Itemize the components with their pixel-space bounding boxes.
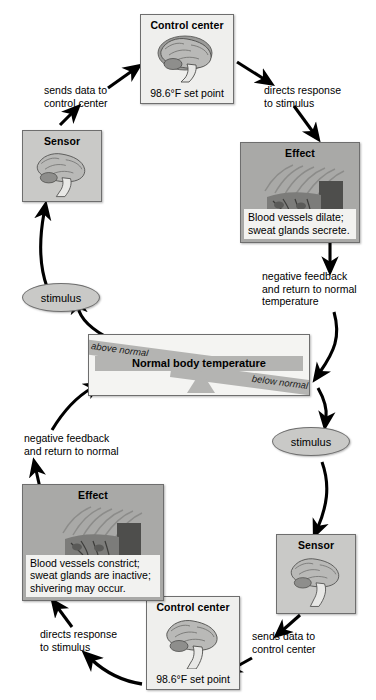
effect-box-bottom[interactable]: Effect Blood vessels constrict; sweat: [22, 484, 164, 601]
effect-title-bottom: Effect: [23, 485, 163, 501]
sensor-box-bottom[interactable]: Sensor: [276, 534, 356, 614]
caption-directs-response-top: directs response to stimulus: [264, 84, 374, 109]
arrow-feedback-to-balance-top: [320, 312, 337, 372]
sensor-title-bottom: Sensor: [277, 535, 355, 551]
caption-text: negative feedback and return to normal t…: [262, 270, 357, 307]
arrow-control-to-response-top: [237, 62, 264, 79]
arrow-sensor-to-control-top: [60, 113, 72, 125]
normal-temperature-label: Normal body temperature: [132, 357, 266, 369]
brain-icon: [156, 615, 230, 669]
effect-box-top[interactable]: Effect Blood vessels dilate; sweat gl: [240, 142, 360, 243]
brain-icon: [151, 33, 223, 83]
effect-caption-bottom: Blood vessels constrict; sweat glands ar…: [26, 555, 160, 598]
arrow-response-to-effect-top: [294, 106, 313, 132]
caption-text: sends data to control center: [44, 84, 108, 109]
brain-icon: [28, 147, 96, 199]
stimulus-label-top: stimulus: [41, 292, 81, 304]
arrow-feedback-to-balance-bottom: [52, 388, 92, 430]
sensor-box-top[interactable]: Sensor: [22, 130, 102, 202]
control-center-box-bottom[interactable]: Control center 98.6°F set point: [146, 596, 240, 690]
arrow-sensor-to-senddata-bottom: [283, 615, 300, 630]
arrow-response-to-effect-bottom: [58, 608, 72, 627]
arrow-balance-to-stimulus-bottom: [318, 388, 326, 418]
arrow-control-to-response-bottom: [92, 660, 142, 684]
caption-text: directs response to stimulus: [40, 628, 117, 653]
effect-title-top: Effect: [241, 143, 359, 159]
skin-sweat-gland-icon: [259, 161, 355, 213]
stimulus-label-bottom: stimulus: [291, 436, 331, 448]
caption-sends-data-bottom: sends data to control center: [252, 630, 368, 655]
caption-sends-data-top: sends data to control center: [44, 84, 154, 109]
effect-caption-top: Blood vessels dilate; sweat glands secre…: [244, 209, 356, 239]
homeostasis-feedback-diagram: Control center 98.6°F set point Sensor: [0, 0, 376, 700]
control-center-box-top[interactable]: Control center 98.6°F set point: [140, 14, 234, 104]
caption-negative-feedback-bottom: negative feedback and return to normal: [24, 432, 154, 457]
below-normal-label: below normal: [251, 373, 308, 391]
caption-directs-response-bottom: directs response to stimulus: [40, 628, 150, 653]
stimulus-oval-bottom[interactable]: stimulus: [272, 427, 350, 456]
caption-text: sends data to control center: [252, 630, 316, 655]
control-center-setpoint-top: 98.6°F set point: [141, 87, 233, 99]
temperature-balance-panel: above normal below normal Normal body te…: [88, 334, 310, 396]
normal-temperature-bar: Normal body temperature: [95, 356, 303, 371]
control-center-setpoint-bottom: 98.6°F set point: [147, 673, 239, 685]
caption-negative-feedback-top: negative feedback and return to normal t…: [262, 270, 374, 308]
fulcrum-triangle: [187, 371, 215, 393]
arrow-stimulus-to-sensor-top: [41, 213, 47, 287]
caption-text: directs response to stimulus: [264, 84, 341, 109]
caption-text: negative feedback and return to normal: [24, 432, 119, 457]
control-center-title-top: Control center: [141, 15, 233, 31]
stimulus-oval-top[interactable]: stimulus: [22, 283, 100, 312]
skin-sweat-gland-icon: [55, 503, 155, 555]
arrow-stimulus-to-sensor-bottom: [318, 462, 327, 527]
brain-icon: [282, 551, 350, 609]
sensor-title-top: Sensor: [23, 131, 101, 147]
